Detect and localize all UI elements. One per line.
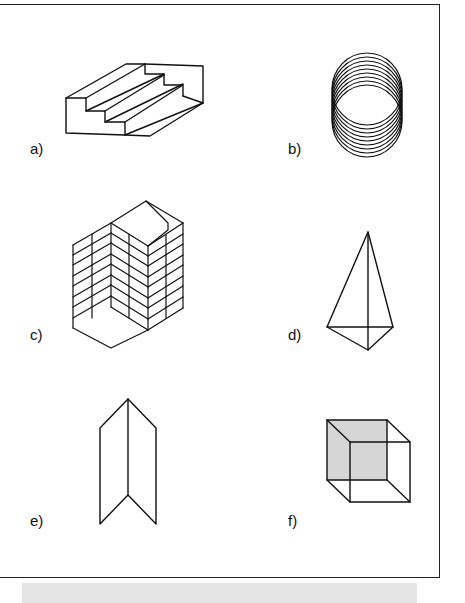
folded-card-figure <box>100 399 156 524</box>
panel-label-c: c) <box>30 326 43 343</box>
panel-label-a: a) <box>30 140 43 157</box>
panel-label-d: d) <box>288 326 301 343</box>
pyramid-figure <box>327 232 393 350</box>
staircase-figure <box>66 64 203 136</box>
panel-label-f: f) <box>288 512 297 529</box>
necker-cube-figure <box>327 420 410 502</box>
building-figure <box>73 201 183 348</box>
caption-bar <box>22 583 417 603</box>
rings-figure <box>332 53 402 157</box>
panel-label-b: b) <box>288 140 301 157</box>
panel-label-e: e) <box>30 512 43 529</box>
